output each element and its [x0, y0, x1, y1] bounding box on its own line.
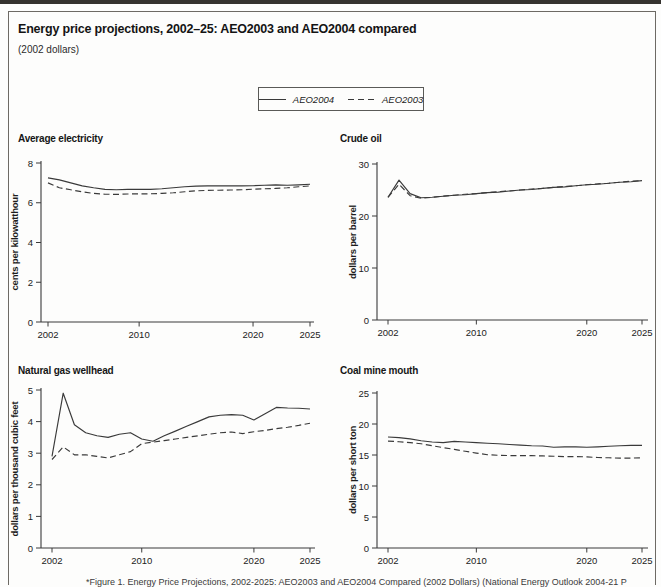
- legend-item-aeo2004: AEO2004: [259, 94, 334, 105]
- x-tick-label: 2020: [576, 327, 597, 338]
- y-tick-label: 0: [364, 315, 369, 326]
- y-tick-label: 0: [28, 317, 33, 328]
- x-tick-label: 2010: [129, 329, 150, 340]
- figure-caption: *Figure 1. Energy Price Projections, 200…: [86, 577, 627, 587]
- x-tick-label: 2025: [631, 555, 652, 566]
- panel-title-crude-oil: Crude oil: [340, 133, 382, 144]
- crude-oil-chart: 01020302002201020202025: [330, 128, 661, 346]
- y-tick-label: 8: [28, 158, 33, 169]
- y-axis-label-crude-oil: dollars per barrel: [347, 205, 358, 279]
- legend-box: AEO2004 AEO2003: [258, 87, 424, 111]
- panel-natural-gas-wellhead: 0123452002201020202025 Natural gas wellh…: [0, 360, 330, 578]
- panel-title-average-electricity: Average electricity: [18, 133, 103, 144]
- series-AEO2003-line: [388, 441, 642, 458]
- y-tick-label: 4: [28, 416, 33, 427]
- x-tick-label: 2002: [377, 327, 398, 338]
- y-tick-label: 1: [28, 511, 33, 522]
- series-AEO2004-line: [388, 437, 642, 447]
- panel-coal-mine-mouth: 05101520252002201020202025 Coal mine mou…: [330, 360, 661, 578]
- natural-gas-wellhead-chart: 0123452002201020202025: [0, 360, 330, 578]
- figure-title: Energy price projections, 2002–25: AEO20…: [18, 22, 416, 36]
- x-tick-label: 2020: [242, 329, 263, 340]
- y-tick-label: 10: [358, 263, 369, 274]
- y-axis-label-average-electricity: cents per kilowatthour: [9, 194, 20, 291]
- y-tick-label: 30: [358, 159, 369, 170]
- y-tick-label: 2: [28, 479, 33, 490]
- top-border-bar: [0, 0, 661, 4]
- y-tick-label: 25: [358, 388, 369, 399]
- y-tick-label: 20: [358, 419, 369, 430]
- y-axis-label-coal-mine-mouth: dollars per short ton: [347, 426, 358, 514]
- x-tick-label: 2002: [377, 555, 398, 566]
- figure-subtitle: (2002 dollars): [18, 44, 79, 55]
- x-tick-label: 2020: [576, 555, 597, 566]
- x-tick-label: 2010: [131, 555, 152, 566]
- y-tick-label: 0: [28, 543, 33, 554]
- panel-crude-oil: 01020302002201020202025 Crude oil dollar…: [330, 128, 661, 346]
- dashed-line-icon: [348, 99, 375, 100]
- y-tick-label: 6: [28, 197, 33, 208]
- legend-label-aeo2003: AEO2003: [382, 94, 423, 105]
- x-tick-label: 2025: [299, 555, 320, 566]
- y-tick-label: 10: [358, 481, 369, 492]
- y-tick-label: 0: [364, 543, 369, 554]
- solid-line-icon: [259, 99, 286, 100]
- x-tick-label: 2002: [37, 329, 58, 340]
- legend-item-aeo2003: AEO2003: [348, 94, 423, 105]
- panel-title-natural-gas-wellhead: Natural gas wellhead: [18, 365, 113, 376]
- x-tick-label: 2010: [466, 327, 487, 338]
- y-tick-label: 5: [28, 385, 33, 396]
- y-tick-label: 2: [28, 277, 33, 288]
- y-tick-label: 5: [364, 512, 369, 523]
- panel-title-coal-mine-mouth: Coal mine mouth: [340, 365, 418, 376]
- y-tick-label: 3: [28, 448, 33, 459]
- y-axis-label-natural-gas-wellhead: dollars per thousand cubic feet: [9, 402, 20, 537]
- legend-label-aeo2004: AEO2004: [293, 94, 334, 105]
- average-electricity-chart: 024682002201020202025: [0, 128, 330, 346]
- series-AEO2004-line: [388, 180, 642, 198]
- series-AEO2004-line: [52, 393, 310, 456]
- coal-mine-mouth-chart: 05101520252002201020202025: [330, 360, 661, 578]
- x-tick-label: 2025: [299, 329, 320, 340]
- y-tick-label: 15: [358, 450, 369, 461]
- panel-average-electricity: 024682002201020202025 Average electricit…: [0, 128, 330, 346]
- y-tick-label: 4: [28, 237, 33, 248]
- x-tick-label: 2020: [243, 555, 264, 566]
- x-tick-label: 2025: [631, 327, 652, 338]
- x-tick-label: 2010: [466, 555, 487, 566]
- y-tick-label: 20: [358, 211, 369, 222]
- x-tick-label: 2002: [41, 555, 62, 566]
